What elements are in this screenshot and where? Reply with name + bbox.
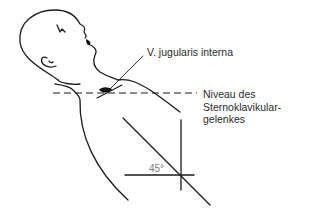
jugular-label: V. jugularis interna: [147, 46, 233, 59]
chin-outline: [88, 44, 118, 80]
mouth: [86, 39, 90, 45]
jugular-pointer: [108, 56, 143, 91]
ear: [42, 57, 56, 67]
jaw-line: [58, 80, 80, 84]
head-outline: [20, 10, 86, 80]
level-label-line1: Niveau des: [203, 88, 256, 101]
level-label-line2: Sternoklavikular-: [203, 101, 281, 114]
back-outline: [55, 84, 128, 200]
angle-label: 45°: [149, 163, 164, 174]
eye: [57, 25, 65, 32]
body-axis-line: [123, 118, 210, 205]
level-label-line3: gelenkes: [203, 113, 245, 126]
chest-outline: [118, 80, 180, 112]
